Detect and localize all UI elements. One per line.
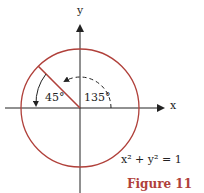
- angle-45-label: 45°: [45, 91, 65, 104]
- equation-label: x² + y² = 1: [121, 153, 182, 166]
- y-axis-label: y: [77, 4, 83, 17]
- x-axis-label: x: [170, 99, 176, 112]
- angle-135-label: 135°: [84, 91, 111, 104]
- figure-caption: Figure 11: [127, 177, 192, 191]
